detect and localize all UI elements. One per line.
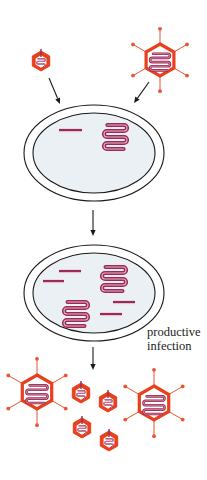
cell-membrane [33,113,155,193]
large-virus-icon [131,27,189,93]
productive-infection-diagram: productive infection [0,0,207,480]
linear-dna-icon [59,271,81,273]
small-virus-icon [32,49,49,71]
small-virus-icon [100,429,117,451]
host-cells [24,105,164,341]
linear-dna-icon [43,281,64,283]
productive-infection-label: productive infection [147,325,201,353]
arrow-icon [49,78,60,104]
small-virus-icon [72,381,89,403]
cell-1 [24,105,164,201]
label-line-1: productive [147,325,201,339]
cell-2 [24,245,164,341]
small-virus-icon [73,416,90,438]
progeny-viruses [6,357,184,451]
large-virus-icon [6,357,67,427]
arrow-icon [90,210,95,236]
arrow-icon [134,82,149,103]
linear-dna-icon [113,302,135,304]
infecting-viruses [32,27,189,93]
label-line-2: infection [147,339,192,353]
linear-dna-icon [59,130,82,132]
large-virus-icon [123,368,184,438]
cell-membrane [33,253,155,333]
arrow-icon [90,347,95,370]
small-virus-icon [99,390,116,412]
linear-dna-icon [100,314,122,316]
